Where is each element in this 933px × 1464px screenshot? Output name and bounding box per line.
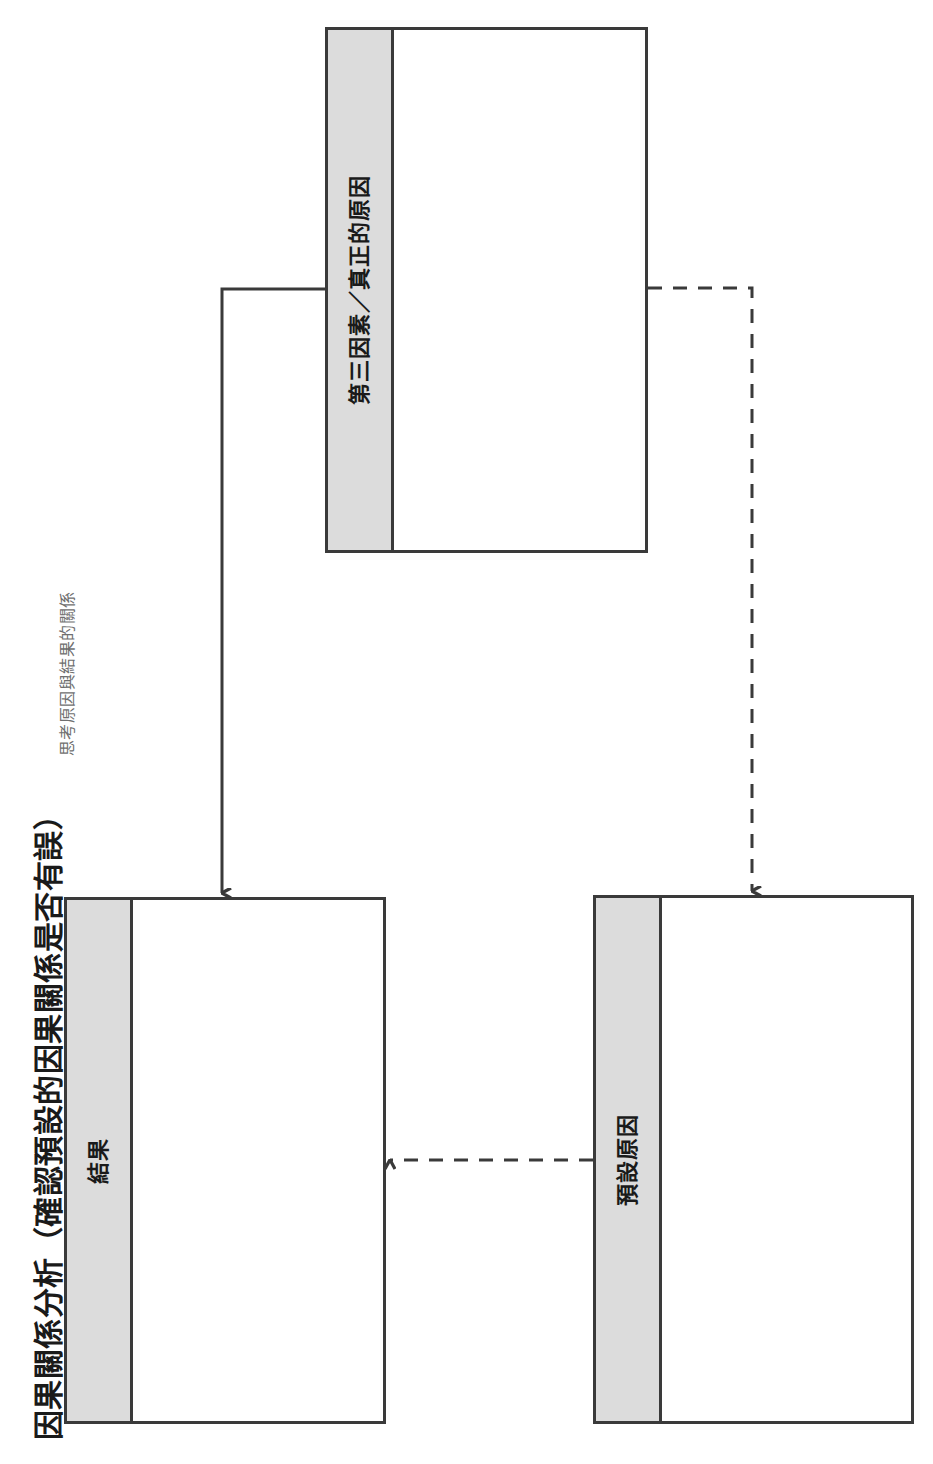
box-third-factor-header: 第三因素／真正的原因 xyxy=(328,30,394,550)
heading-block: 因果關係分析（確認預設的因果關係是否有誤） 思考原因與結果的關係 xyxy=(0,0,66,1464)
connector-third-to-effect xyxy=(222,289,325,893)
box-effect-header: 結果 xyxy=(67,900,133,1421)
diagram-canvas: 因果關係分析（確認預設的因果關係是否有誤） 思考原因與結果的關係 第三因素／真正 xyxy=(0,0,933,1464)
box-effect-label: 結果 xyxy=(88,1138,110,1184)
box-assumed-cause-header: 預設原因 xyxy=(596,898,662,1421)
box-third-factor-content[interactable] xyxy=(394,30,645,550)
box-effect[interactable]: 結果 xyxy=(64,897,386,1424)
connector-third-to-cause xyxy=(648,288,752,891)
box-third-factor[interactable]: 第三因素／真正的原因 xyxy=(325,27,648,553)
page-subtitle: 思考原因與結果的關係 xyxy=(60,591,76,756)
box-assumed-cause-content[interactable] xyxy=(662,898,911,1421)
box-third-factor-label: 第三因素／真正的原因 xyxy=(349,175,371,405)
box-assumed-cause-label: 預設原因 xyxy=(617,1114,639,1206)
page-title: 因果關係分析（確認預設的因果關係是否有誤） xyxy=(34,800,64,1441)
box-assumed-cause[interactable]: 預設原因 xyxy=(593,895,914,1424)
box-effect-content[interactable] xyxy=(133,900,383,1421)
